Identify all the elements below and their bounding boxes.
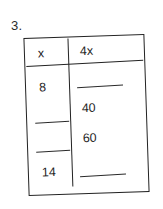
table-header-output: 4x — [80, 45, 94, 58]
problem-number-label: 3. — [11, 19, 22, 32]
table-header-input: x — [38, 47, 45, 60]
table-cell-input-3: 14 — [42, 166, 56, 179]
table-cell-output-2: 60 — [83, 132, 97, 145]
function-table: x 4x 8 40 60 14 — [23, 34, 149, 196]
worksheet-problem: 3. x 4x 8 40 60 14 — [0, 0, 163, 209]
table-cell-input-0: 8 — [39, 81, 46, 94]
table-cell-output-1: 40 — [82, 102, 96, 115]
